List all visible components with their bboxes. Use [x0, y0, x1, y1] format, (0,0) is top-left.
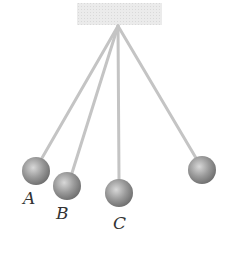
label-a: A [21, 188, 35, 208]
label-b: B [55, 203, 69, 223]
strings [42, 26, 196, 180]
string-a [42, 26, 118, 158]
string-c [118, 26, 119, 180]
pendulum-diagram: A B C [0, 0, 229, 253]
bob-b [53, 172, 81, 200]
label-c: C [113, 213, 126, 233]
ceiling-support [77, 3, 162, 25]
bob-c [105, 179, 133, 207]
string-b [72, 26, 118, 173]
bob-a [22, 157, 50, 185]
string-d [118, 26, 196, 158]
bob-d [188, 156, 216, 184]
